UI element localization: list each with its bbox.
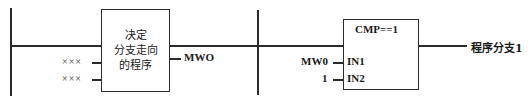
compare-in2-pin-label: IN2 <box>347 72 365 84</box>
decision-block-line-2: 分支走向 <box>101 43 170 58</box>
decision-input-2-label: ××× <box>62 73 82 84</box>
left-rung-input-line <box>10 45 102 47</box>
compare-in1-pin-label: IN1 <box>347 55 365 67</box>
decision-output-line <box>170 45 258 47</box>
right-rung-input-line <box>257 45 344 47</box>
decision-mwo-label: MWO <box>184 51 214 63</box>
compare-in1-stub <box>333 62 344 64</box>
compare-in2-operand: 1 <box>322 72 328 84</box>
compare-output-line <box>419 45 467 47</box>
compare-in2-stub <box>333 79 344 81</box>
compare-block-header: CMP==1 <box>355 23 398 35</box>
compare-in1-operand: MW0 <box>301 55 328 67</box>
compare-output-label: 程序分支1 <box>471 39 523 55</box>
right-power-rail <box>257 10 259 95</box>
decision-block-line-1: 决定 <box>101 28 170 43</box>
decision-input-1-label: ××× <box>62 56 82 67</box>
decision-mwo-stub <box>170 58 181 60</box>
decision-input-1-stub <box>92 62 102 64</box>
decision-input-2-stub <box>92 79 102 81</box>
decision-block-line-3: 的程序 <box>101 58 170 73</box>
decision-block-text: 决定 分支走向 的程序 <box>101 28 170 73</box>
left-power-rail <box>10 8 12 96</box>
ladder-diagram-canvas: 决定 分支走向 的程序 ××× ××× MWO CMP==1 MW0 IN1 1… <box>0 0 528 104</box>
